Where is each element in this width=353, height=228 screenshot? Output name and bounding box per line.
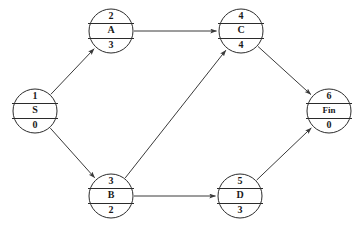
edge-b-to-c bbox=[125, 50, 226, 178]
node-number: 5 bbox=[238, 175, 243, 186]
node-number: 4 bbox=[239, 10, 244, 21]
node-label: A bbox=[107, 24, 115, 35]
node-duration: 2 bbox=[109, 204, 114, 215]
edges-layer bbox=[50, 31, 311, 196]
node-duration: 0 bbox=[33, 119, 38, 130]
node-number: 1 bbox=[33, 90, 38, 101]
node-label: D bbox=[236, 189, 243, 200]
node-c[interactable]: 4C4 bbox=[218, 9, 264, 53]
node-fin[interactable]: 6Fin0 bbox=[306, 89, 352, 133]
node-label: Fin bbox=[322, 105, 335, 115]
node-number: 2 bbox=[109, 10, 114, 21]
node-label: C bbox=[237, 24, 244, 35]
node-duration: 0 bbox=[327, 119, 332, 130]
node-number: 3 bbox=[109, 175, 114, 186]
node-label: B bbox=[108, 189, 115, 200]
node-duration: 3 bbox=[238, 204, 243, 215]
edge-c-to-fin bbox=[258, 46, 311, 94]
node-d[interactable]: 5D3 bbox=[217, 174, 263, 218]
node-b[interactable]: 3B2 bbox=[88, 174, 134, 218]
network-canvas: 1S02A33B24C45D36Fin0 bbox=[0, 0, 353, 228]
node-a[interactable]: 2A3 bbox=[88, 9, 134, 53]
node-duration: 4 bbox=[239, 39, 244, 50]
node-label: S bbox=[32, 104, 38, 115]
node-number: 6 bbox=[327, 90, 332, 101]
node-s[interactable]: 1S0 bbox=[12, 89, 58, 133]
project-network-diagram: 1S02A33B24C45D36Fin0 bbox=[0, 0, 353, 228]
edge-s-to-a bbox=[51, 49, 94, 95]
node-duration: 3 bbox=[109, 39, 114, 50]
nodes-layer: 1S02A33B24C45D36Fin0 bbox=[12, 9, 352, 218]
edge-s-to-b bbox=[50, 128, 94, 178]
edge-d-to-fin bbox=[257, 128, 312, 180]
